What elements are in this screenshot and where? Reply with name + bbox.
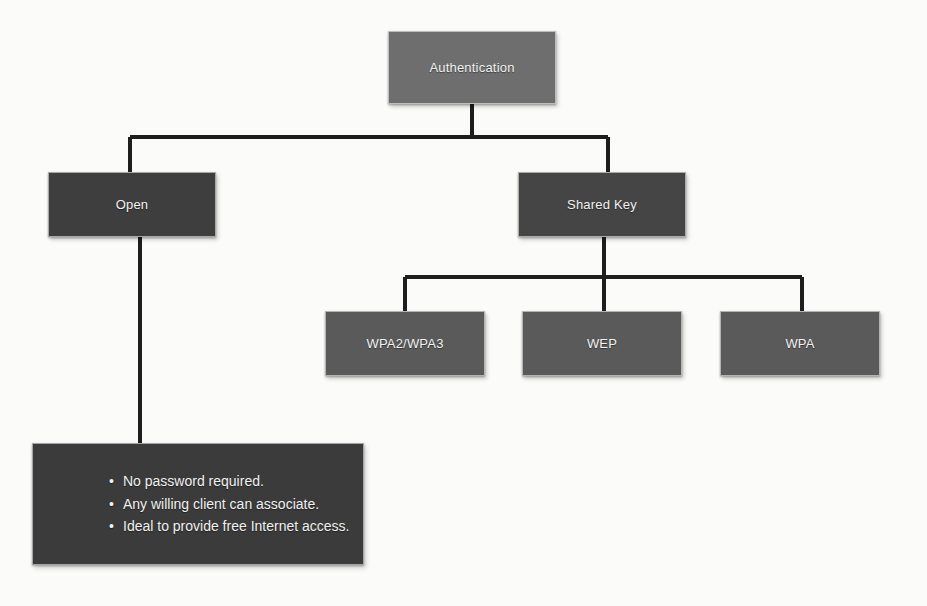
node-wpa-label: WPA [785,336,814,352]
list-item: • Any willing client can associate. [109,493,349,516]
diagram-canvas: Authentication Open Shared Key WPA2/WPA3… [0,0,927,606]
node-open: Open [48,172,216,237]
node-open-label: Open [116,197,149,213]
list-item-label: Any willing client can associate. [123,496,319,512]
list-item-label: No password required. [123,473,264,489]
node-wpa: WPA [720,311,880,376]
node-authentication: Authentication [388,31,556,104]
node-shared-key-label: Shared Key [567,197,637,213]
node-wpa2-wpa3: WPA2/WPA3 [325,311,485,376]
node-wpa2-wpa3-label: WPA2/WPA3 [366,336,443,352]
list-item: • Ideal to provide free Internet access. [109,515,349,538]
list-item: • No password required. [109,470,349,493]
bullet-icon: • [109,470,114,493]
bullet-icon: • [109,515,114,538]
bullet-icon: • [109,493,114,516]
node-shared-key: Shared Key [518,172,686,237]
open-notes-list: • No password required. • Any willing cl… [33,470,349,538]
node-authentication-label: Authentication [429,60,514,76]
node-wep-label: WEP [587,336,617,352]
list-item-label: Ideal to provide free Internet access. [123,518,349,534]
node-open-notes: • No password required. • Any willing cl… [32,443,364,565]
node-wep: WEP [522,311,682,376]
